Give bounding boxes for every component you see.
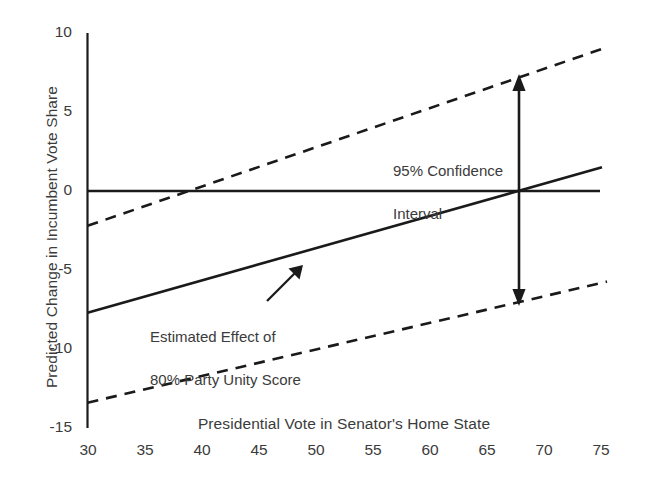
chart-plot-area: [0, 0, 646, 486]
x-tick-label-55: 55: [353, 441, 393, 459]
x-tick-label-45: 45: [239, 441, 279, 459]
x-axis-title: Presidential Vote in Senator's Home Stat…: [184, 415, 504, 433]
annotation-estimated-effect: Estimated Effect of 80% Party Unity Scor…: [150, 305, 390, 411]
annotation-estimated-effect-line2: 80% Party Unity Score: [150, 369, 390, 390]
y-tick-label-minus-10: -10: [32, 339, 72, 357]
x-tick-label-50: 50: [296, 441, 336, 459]
x-tick-label-35: 35: [125, 441, 165, 459]
estimated-effect-pointer-arrow: [267, 265, 303, 301]
x-tick-label-70: 70: [524, 441, 564, 459]
chart-figure: Predicted Change in Incumbent Vote Share…: [0, 0, 646, 486]
annotation-confidence-interval: 95% Confidence Interval: [393, 139, 523, 245]
y-tick-label-minus-15: -15: [32, 418, 72, 436]
confidence-interval-upper-line: [88, 47, 608, 226]
x-tick-label-65: 65: [467, 441, 507, 459]
x-tick-label-40: 40: [182, 441, 222, 459]
annotation-estimated-effect-line1: Estimated Effect of: [150, 326, 390, 347]
y-tick-label-10: 10: [32, 23, 72, 41]
y-axis-title: Predicted Change in Incumbent Vote Share: [43, 42, 61, 432]
annotation-confidence-interval-line2: Interval: [393, 203, 523, 224]
x-tick-label-60: 60: [410, 441, 450, 459]
y-tick-label-0: 0: [32, 181, 72, 199]
y-tick-label-minus-5: -5: [32, 260, 72, 278]
x-tick-label-75: 75: [581, 441, 621, 459]
annotation-confidence-interval-line1: 95% Confidence: [393, 160, 523, 181]
x-tick-label-30: 30: [68, 441, 108, 459]
y-tick-label-5: 5: [32, 102, 72, 120]
